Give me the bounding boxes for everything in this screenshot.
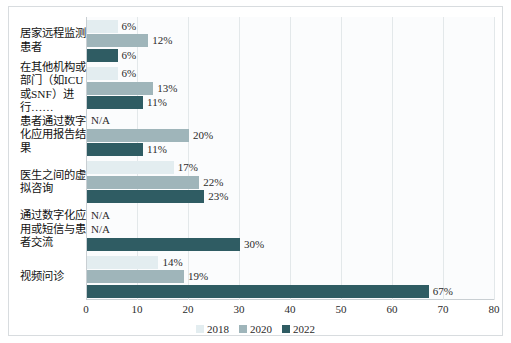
x-tick-label: 0: [83, 303, 89, 315]
x-tick-label: 10: [132, 303, 143, 315]
x-tick-label: 80: [489, 303, 500, 315]
category-label: 医生之间的虚拟咨询: [20, 169, 86, 196]
bar-value-label: 20%: [193, 129, 213, 142]
bar-value-label: 17%: [178, 161, 198, 174]
x-tick-label: 70: [438, 303, 449, 315]
x-tick-label: 50: [336, 303, 347, 315]
legend-item[interactable]: 2022: [282, 323, 315, 335]
bar: [87, 49, 118, 62]
bar-value-label: 6%: [122, 20, 137, 33]
gridline: [443, 17, 444, 300]
legend-label: 2020: [250, 323, 272, 335]
gridline: [290, 17, 291, 300]
legend-label: 2022: [293, 323, 315, 335]
legend-swatch: [239, 325, 247, 333]
legend-swatch: [282, 325, 290, 333]
bar: [87, 20, 118, 33]
legend-label: 2018: [207, 323, 229, 335]
bar-na-label: N/A: [91, 114, 110, 127]
x-tick-label: 40: [285, 303, 296, 315]
bar-value-label: 6%: [122, 67, 137, 80]
bar: [87, 270, 184, 283]
gridline: [494, 17, 495, 300]
category-label: 在其他机构或部门（如ICU或SNF）进行……: [20, 61, 86, 115]
bar-value-label: 6%: [122, 49, 137, 62]
gridline: [188, 17, 189, 300]
gridline: [239, 17, 240, 300]
x-tick-label: 30: [234, 303, 245, 315]
bar-na-label: N/A: [91, 223, 110, 236]
bar: [87, 129, 189, 142]
chart-frame: 居家远程监测患者在其他机构或部门（如ICU或SNF）进行……患者通过数字化应用报…: [8, 6, 503, 336]
bar: [87, 143, 143, 156]
bar-na-label: N/A: [91, 209, 110, 222]
bar-value-label: 11%: [147, 96, 167, 109]
category-label: 患者通过数字化应用报告结果: [20, 115, 86, 156]
gridline: [341, 17, 342, 300]
bar: [87, 82, 153, 95]
bar: [87, 34, 148, 47]
legend-item[interactable]: 2020: [239, 323, 272, 335]
bar-value-label: 13%: [157, 82, 177, 95]
x-tick-label: 60: [387, 303, 398, 315]
legend-item[interactable]: 2018: [196, 323, 229, 335]
category-label: 居家远程监测患者: [20, 27, 86, 54]
bar-value-label: 19%: [188, 270, 208, 283]
bar: [87, 256, 158, 269]
bar-value-label: 12%: [152, 34, 172, 47]
bar: [87, 285, 429, 298]
category-label: 通过数字化应用或短信与患者交流: [20, 209, 86, 250]
bar-value-label: 14%: [162, 256, 182, 269]
bar: [87, 190, 204, 203]
bar: [87, 67, 118, 80]
bar-value-label: 22%: [203, 176, 223, 189]
category-label: 视频问诊: [20, 270, 86, 284]
bar: [87, 161, 174, 174]
plot-area: [86, 17, 494, 300]
bar-value-label: 11%: [147, 143, 167, 156]
bar: [87, 238, 240, 251]
bar-value-label: 67%: [433, 285, 453, 298]
bar: [87, 176, 199, 189]
bar-value-label: 23%: [208, 190, 228, 203]
bar-value-label: 30%: [244, 238, 264, 251]
gridline: [392, 17, 393, 300]
legend-swatch: [196, 325, 204, 333]
chart-legend: 201820202022: [9, 323, 502, 335]
x-tick-label: 20: [183, 303, 194, 315]
bar: [87, 96, 143, 109]
